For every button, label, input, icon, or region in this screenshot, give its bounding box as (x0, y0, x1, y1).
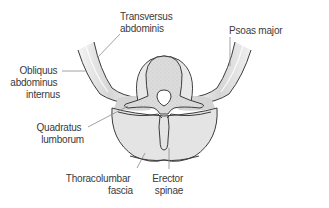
right-abdominal-wall (189, 42, 251, 104)
lumbar-cross-section-diagram: Transversus abdominis Obliquus abdominus… (0, 0, 329, 208)
leader-transversus-abdominis (98, 34, 120, 57)
left-abdominal-wall (78, 42, 140, 104)
label-psoas-major: Psoas major (229, 25, 283, 36)
erector-spinae-mass (112, 108, 217, 161)
label-quadratus-lumborum: Quadratus lumborum (37, 122, 85, 145)
label-thoracolumbar-fascia: Thoracolumbar fascia (66, 173, 134, 196)
label-obliquus-abdominus-internus: Obliquus abdominus internus (10, 65, 60, 100)
label-erector-spinae: Erector spinae (152, 173, 185, 196)
label-transversus-abdominis: Transversus abdominis (120, 11, 175, 34)
